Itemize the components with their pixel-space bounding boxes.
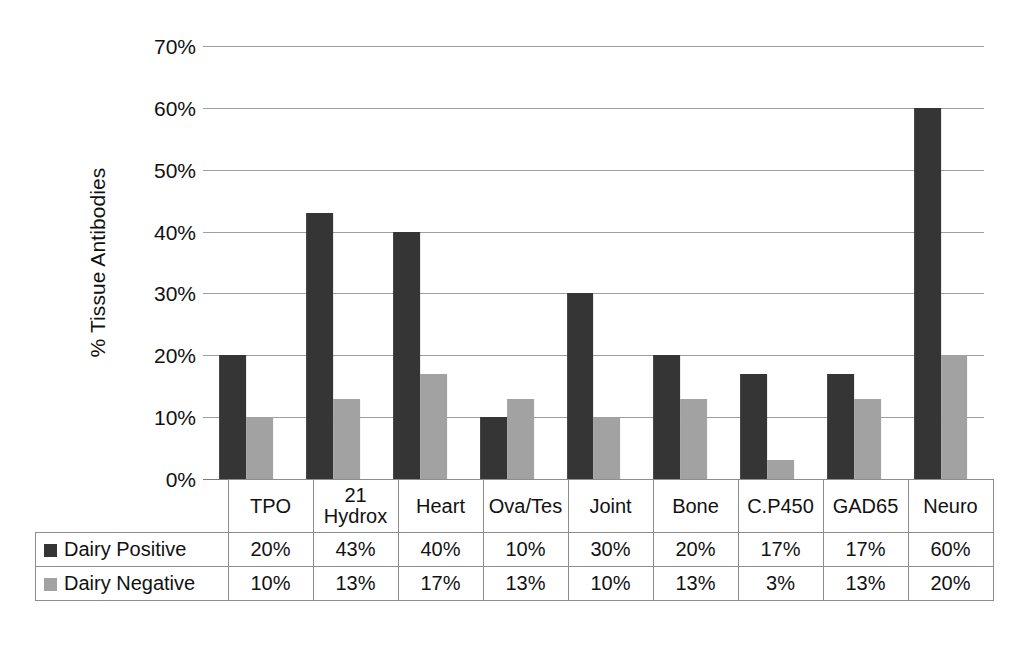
y-axis-title: % Tissue Antibodies: [84, 46, 112, 479]
table-cell-value: 10%: [228, 567, 313, 601]
bar-pair: [567, 46, 621, 479]
table-cell-value: 43%: [313, 533, 398, 567]
bar[interactable]: [246, 417, 273, 479]
y-axis-tick-label: 50%: [112, 159, 196, 180]
y-axis-tick-label: 70%: [112, 36, 196, 57]
table-cell-value: 17%: [823, 533, 908, 567]
table-column-header: Joint: [568, 480, 653, 533]
bar[interactable]: [653, 355, 680, 479]
bar-group: [463, 46, 550, 479]
table-cell-value: 20%: [228, 533, 313, 567]
table-column-header: C.P450: [738, 480, 823, 533]
table-cell-value: 3%: [738, 567, 823, 601]
data-table: TPO21HydroxHeartOva/TesJointBoneC.P450GA…: [35, 479, 994, 601]
table-column-header: TPO: [228, 480, 313, 533]
table-column-header-line: GAD65: [824, 496, 908, 517]
bar[interactable]: [594, 417, 621, 479]
table-column-header: 21Hydrox: [313, 480, 398, 533]
y-axis-tick-label: 60%: [112, 97, 196, 118]
bar[interactable]: [767, 460, 794, 479]
table-header: TPO21HydroxHeartOva/TesJointBoneC.P450GA…: [36, 480, 994, 533]
bar-group: [203, 46, 290, 479]
bar[interactable]: [567, 293, 594, 479]
table-column-header: Heart: [398, 480, 483, 533]
bar[interactable]: [306, 213, 333, 479]
table-column-header: GAD65: [823, 480, 908, 533]
legend-swatch-icon: [44, 544, 57, 557]
chart-figure: % Tissue Antibodies 0%10%20%30%40%50%60%…: [0, 0, 1024, 650]
table-cell-value: 20%: [908, 567, 993, 601]
bar[interactable]: [680, 399, 707, 479]
table-column-header-line: C.P450: [739, 496, 823, 517]
table-row: Dairy Positive20%43%40%10%30%20%17%17%60…: [36, 533, 994, 567]
bar-pair: [306, 46, 360, 479]
table-cell-value: 17%: [738, 533, 823, 567]
legend-swatch-icon: [44, 578, 57, 591]
table-cell-value: 40%: [398, 533, 483, 567]
y-axis-tick-label: 10%: [112, 407, 196, 428]
table-column-header-line: Heart: [399, 496, 483, 517]
table-corner-cell: [36, 480, 229, 533]
table-cell-value: 30%: [568, 533, 653, 567]
table-cell-value: 13%: [483, 567, 568, 601]
legend-label: Dairy Negative: [64, 572, 195, 595]
table-cell-value: 20%: [653, 533, 738, 567]
legend-label: Dairy Positive: [64, 538, 186, 561]
bar-columns: [203, 46, 984, 479]
bar[interactable]: [854, 399, 881, 479]
bar[interactable]: [420, 374, 447, 479]
bar[interactable]: [941, 355, 968, 479]
y-axis-tick-label: 30%: [112, 283, 196, 304]
table-column-header-line: Joint: [569, 496, 653, 517]
bar[interactable]: [827, 374, 854, 479]
table-column-header: Bone: [653, 480, 738, 533]
bar-group: [810, 46, 897, 479]
table-cell-value: 17%: [398, 567, 483, 601]
table-cell-value: 10%: [568, 567, 653, 601]
table-column-header-line: Ova/Tes: [484, 496, 568, 517]
table-column-header-line: Neuro: [909, 496, 993, 517]
bar-group: [290, 46, 377, 479]
table-cell-value: 10%: [483, 533, 568, 567]
bar-group: [377, 46, 464, 479]
table-column-header: Neuro: [908, 480, 993, 533]
bar-pair: [393, 46, 447, 479]
bar-pair: [653, 46, 707, 479]
table-column-header-line: Hydrox: [314, 506, 398, 527]
legend-entry: Dairy Positive: [36, 533, 229, 567]
bar-pair: [740, 46, 794, 479]
bar[interactable]: [333, 399, 360, 479]
bar[interactable]: [740, 374, 767, 479]
table-column-header-line: TPO: [229, 496, 313, 517]
bar-group: [897, 46, 984, 479]
table-column-header-line: 21: [314, 485, 398, 506]
plot-area: [203, 46, 984, 479]
bar[interactable]: [507, 399, 534, 479]
table-column-header-line: Bone: [654, 496, 738, 517]
table-cell-value: 13%: [653, 567, 738, 601]
table-cell-value: 13%: [313, 567, 398, 601]
y-axis-tick-label: 20%: [112, 345, 196, 366]
bar-pair: [219, 46, 273, 479]
bar-group: [724, 46, 811, 479]
table-body: Dairy Positive20%43%40%10%30%20%17%17%60…: [36, 533, 994, 601]
bar-group: [637, 46, 724, 479]
bar-pair: [827, 46, 881, 479]
bar[interactable]: [393, 232, 420, 479]
table-cell-value: 13%: [823, 567, 908, 601]
table-cell-value: 60%: [908, 533, 993, 567]
table-column-header: Ova/Tes: [483, 480, 568, 533]
bar[interactable]: [914, 108, 941, 479]
bar-pair: [914, 46, 968, 479]
bar-group: [550, 46, 637, 479]
bar-pair: [480, 46, 534, 479]
legend-entry: Dairy Negative: [36, 567, 229, 601]
bar[interactable]: [480, 417, 507, 479]
y-axis-tick-label: 40%: [112, 221, 196, 242]
bar[interactable]: [219, 355, 246, 479]
table-row: Dairy Negative10%13%17%13%10%13%3%13%20%: [36, 567, 994, 601]
table-header-row: TPO21HydroxHeartOva/TesJointBoneC.P450GA…: [36, 480, 994, 533]
